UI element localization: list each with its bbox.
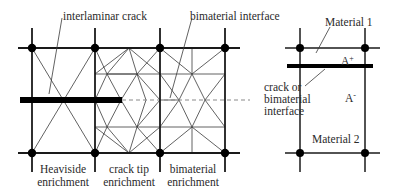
crack-line1: crack or [264, 81, 311, 93]
heaviside-line2: enrichment [37, 176, 89, 189]
bimaterial-line1: bimaterial [167, 163, 219, 176]
mesh-edge [160, 74, 179, 100]
label-a-minus: A- [345, 89, 356, 105]
bimaterial-interface-leader [170, 18, 192, 98]
mesh-node [156, 44, 164, 52]
mesh-edge [160, 48, 192, 74]
cracktip-line2: enrichment [103, 176, 155, 189]
mesh-edge [95, 48, 129, 74]
mesh-node [28, 44, 36, 52]
mesh-edge [137, 74, 146, 100]
label-a-plus: A+ [341, 52, 354, 68]
element-node [361, 44, 369, 52]
mesh-edge [192, 48, 225, 74]
interlaminar-crack-leader [49, 18, 62, 94]
mesh-edge [95, 127, 107, 153]
mesh-edge [137, 127, 160, 153]
mesh-edge [129, 48, 160, 74]
bimaterial-line2: enrichment [167, 176, 219, 189]
mesh-node [221, 44, 229, 52]
mesh-edge [179, 74, 192, 100]
mesh-node [91, 44, 99, 52]
label-material-2: Material 2 [312, 133, 360, 146]
interlaminar-crack-bar [20, 97, 122, 103]
crack-line3: interface [264, 105, 311, 117]
mesh-edge [107, 48, 129, 74]
material-1-leader [316, 27, 330, 53]
right-leader-lines [305, 27, 330, 86]
mesh-edge [129, 127, 137, 153]
crack-line2: bimaterial [264, 93, 311, 105]
cracktip-line1: crack tip [103, 163, 155, 176]
mesh-edge [107, 100, 121, 127]
element-node [361, 149, 369, 157]
mesh-edge [205, 74, 225, 100]
interface-bar [287, 64, 373, 68]
element-node [296, 44, 304, 52]
mesh-edge [95, 100, 107, 127]
label-bimaterial-enrichment: bimaterial enrichment [167, 163, 219, 189]
mesh-edge [137, 48, 160, 74]
label-crack-tip-enrichment: crack tip enrichment [103, 163, 155, 189]
mesh-edge [192, 127, 225, 153]
label-bimaterial-interface: bimaterial interface [190, 10, 280, 23]
mesh-edge [95, 48, 107, 74]
mesh-edge [107, 127, 129, 153]
heaviside-line1: Heaviside [37, 163, 89, 176]
mesh-edge [95, 127, 129, 153]
mesh-edge [179, 100, 192, 127]
crack-bar [20, 97, 122, 103]
mesh-edge [192, 100, 205, 127]
mesh-edge [160, 127, 192, 153]
label-heaviside-enrichment: Heaviside enrichment [37, 163, 89, 189]
label-material-1: Material 1 [325, 16, 373, 29]
mesh-edge [129, 48, 137, 74]
mesh-edge [137, 74, 160, 100]
mesh-node [156, 149, 164, 157]
mesh-edge [160, 100, 179, 127]
interface-bar-rect [287, 64, 373, 68]
mesh-edge [137, 100, 146, 127]
mesh-edge [121, 74, 137, 100]
xfem-enrichment-diagram: interlaminar crack bimaterial interface … [0, 0, 394, 193]
mesh-edge [192, 74, 205, 100]
label-crack-or-bimaterial-interface: crack or bimaterial interface [264, 81, 311, 117]
mesh-edge [137, 100, 160, 127]
a-minus-sup: - [353, 91, 356, 100]
element-node [296, 149, 304, 157]
label-interlaminar-crack: interlaminar crack [63, 10, 147, 23]
mesh-edge [107, 74, 121, 100]
mesh-node [221, 149, 229, 157]
mesh-node [28, 149, 36, 157]
mesh-edge [129, 127, 160, 153]
mesh-edge [121, 100, 137, 127]
mesh-node [91, 149, 99, 157]
a-plus-sup: + [349, 54, 354, 63]
mesh-edge [205, 100, 225, 127]
mesh-edge [95, 74, 107, 100]
